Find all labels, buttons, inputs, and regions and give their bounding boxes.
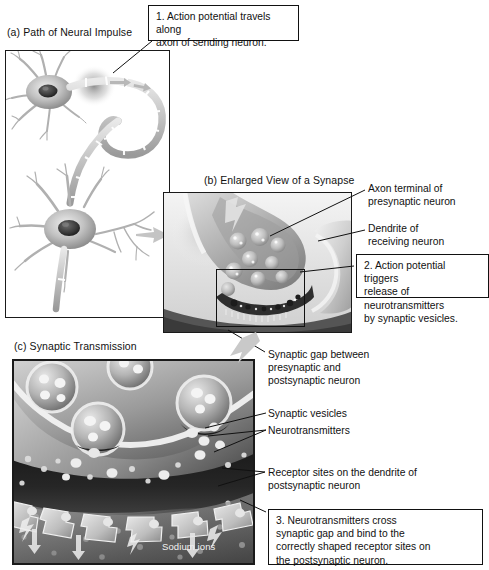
callout-step-3-line4: the postsynaptic neuron. xyxy=(276,554,476,567)
panel-c-label: (c) Synaptic Transmission xyxy=(14,340,137,352)
panel-a-label: (a) Path of Neural Impulse xyxy=(7,26,132,38)
panel-c-illustration xyxy=(14,361,255,565)
callout-step-3-line1: 3. Neurotransmitters cross xyxy=(276,514,476,527)
callout-step-3: 3. Neurotransmitters cross synaptic gap … xyxy=(268,509,483,565)
label-neurotransmitters: Neurotransmitters xyxy=(268,424,350,437)
leader-synaptic-gap xyxy=(228,330,265,352)
label-axon-terminal: Axon terminal of presynaptic neuron xyxy=(368,182,456,208)
callout-step-2-line3: by synaptic vesicles. xyxy=(364,312,482,325)
label-receptor-sites: Receptor sites on the dendrite of postsy… xyxy=(268,466,417,492)
label-dendrite: Dendrite of receiving neuron xyxy=(368,222,444,248)
callout-step-2: 2. Action potential triggers release of … xyxy=(356,254,489,298)
neural-impulse-figure: (a) Path of Neural Impulse 1. Action pot… xyxy=(0,0,489,570)
label-synaptic-gap: Synaptic gap between presynaptic and pos… xyxy=(268,348,369,388)
callout-step-1-line2: axon of sending neuron. xyxy=(156,36,292,49)
callout-step-1: 1. Action potential travels along axon o… xyxy=(148,5,299,41)
panel-b-detail-box xyxy=(216,269,305,327)
callout-step-2-line1: 2. Action potential triggers xyxy=(364,259,482,285)
callout-step-3-line3: correctly shaped receptor sites on xyxy=(276,540,476,553)
callout-step-1-line1: 1. Action potential travels along xyxy=(156,10,292,36)
panel-b-label: (b) Enlarged View of a Synapse xyxy=(204,174,354,186)
panel-c-frame: Sodium ions xyxy=(12,359,255,565)
label-synaptic-vesicles: Synaptic vesicles xyxy=(268,407,347,420)
panel-b-frame xyxy=(163,192,352,333)
panel-a-frame xyxy=(5,50,170,318)
panel-a-illustration xyxy=(6,51,170,318)
callout-step-2-line2: release of neurotransmitters xyxy=(364,285,482,311)
label-sodium-ions: Sodium ions xyxy=(162,541,215,552)
callout-step-3-line2: synaptic gap and bind to the xyxy=(276,527,476,540)
